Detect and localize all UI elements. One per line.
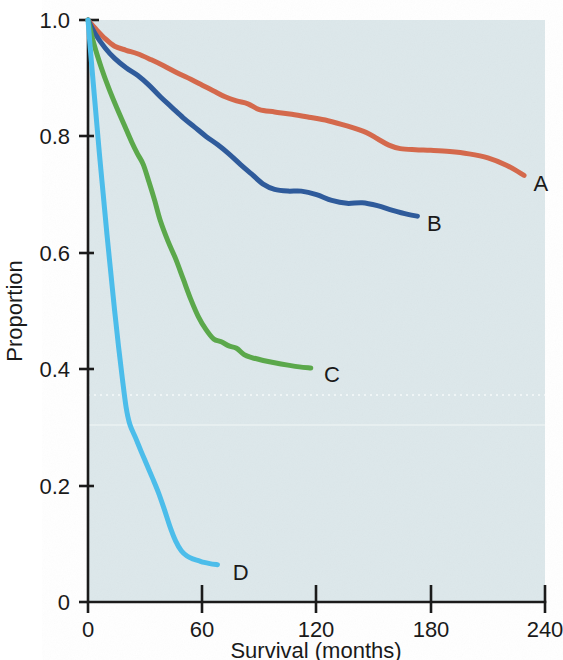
series-label-c: C [324, 362, 340, 387]
y-tick-label-5: 0.2 [39, 474, 70, 499]
x-tick-label-1: 0 [82, 617, 94, 642]
y-tick-label-6: 0 [58, 590, 70, 615]
series-label-b: B [427, 211, 442, 236]
y-axis-title: Proportion [2, 260, 27, 362]
series-label-a: A [534, 171, 549, 196]
series-label-d: D [233, 560, 249, 585]
survival-plot-svg: 1.0 0.8 0.6 0.4 0.2 0 0 60 120 180 240 S… [0, 0, 563, 660]
y-tick-label-2: 0.8 [39, 124, 70, 149]
survival-curve-figure: 1.0 0.8 0.6 0.4 0.2 0 0 60 120 180 240 S… [0, 0, 563, 660]
y-tick-label-4: 0.4 [39, 357, 70, 382]
x-tick-label-2: 60 [190, 617, 214, 642]
y-tick-label-3: 0.6 [39, 241, 70, 266]
x-tick-label-4: 180 [413, 617, 450, 642]
x-tick-label-5: 240 [527, 617, 563, 642]
y-tick-label-1: 1.0 [39, 8, 70, 33]
y-axis-tick-labels: 1.0 0.8 0.6 0.4 0.2 0 [39, 8, 70, 615]
paper-texture-overlay [88, 20, 545, 602]
x-axis-title: Survival (months) [230, 638, 401, 660]
